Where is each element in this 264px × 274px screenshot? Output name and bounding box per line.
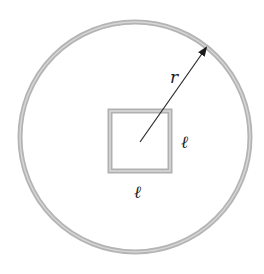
outer-circle — [20, 22, 250, 252]
radius-arrow — [140, 48, 206, 142]
side-length-label-bottom: ℓ — [134, 182, 141, 202]
circle-square-diagram: r ℓ ℓ — [0, 0, 264, 274]
side-length-label-right: ℓ — [181, 132, 188, 152]
radius-label: r — [170, 67, 179, 87]
